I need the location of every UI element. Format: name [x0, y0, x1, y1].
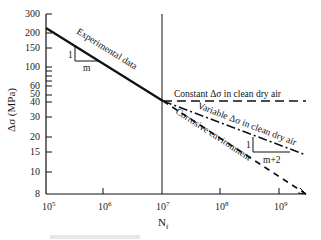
label-constant: Constant Δσ in clean dry air: [174, 89, 282, 99]
x-axis-title: Nf: [158, 216, 169, 231]
svg-text:300: 300: [25, 8, 40, 19]
x-tick-labels: 105 106 107 108 109: [42, 200, 288, 212]
y-tick-labels: 300 200 150 100 60 50 40 30 20 15 10 8: [25, 8, 40, 199]
caption-remnant: [50, 235, 140, 239]
svg-text:107: 107: [156, 200, 170, 212]
slope-m-vertical-label: 1: [68, 50, 73, 60]
slope-m2-horizontal-label: m+2: [263, 155, 281, 165]
svg-text:100: 100: [25, 61, 40, 72]
svg-text:109: 109: [274, 200, 288, 212]
svg-text:30: 30: [30, 111, 40, 122]
svg-text:10: 10: [30, 166, 40, 177]
x-ticks: [103, 188, 279, 194]
svg-text:108: 108: [215, 200, 229, 212]
svg-text:40: 40: [30, 96, 40, 107]
slope-m-horizontal-label: m: [83, 63, 91, 73]
svg-text:106: 106: [98, 200, 112, 212]
series-experimental-line: [46, 28, 163, 101]
svg-text:105: 105: [42, 200, 56, 212]
y-ticks: [46, 14, 52, 172]
svg-text:15: 15: [30, 146, 40, 157]
sn-curve-chart: 300 200 150 100 60 50 40 30 20 15 10 8 1…: [0, 0, 321, 240]
svg-text:200: 200: [25, 27, 40, 38]
slope-m2-vertical-label: 1: [246, 140, 251, 150]
svg-text:150: 150: [25, 42, 40, 53]
y-axis-title: Δσ (MPa): [5, 88, 18, 132]
svg-text:20: 20: [30, 131, 40, 142]
svg-text:8: 8: [35, 188, 40, 199]
